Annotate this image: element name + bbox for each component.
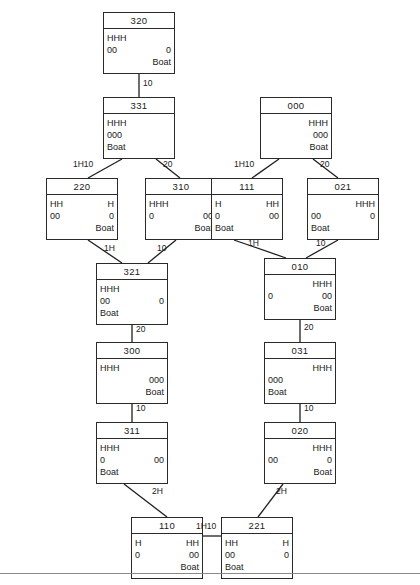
state-node-221[interactable]: 221HHH000Boat (221, 517, 293, 579)
state-node-000[interactable]: 000HHH000Boat (260, 97, 332, 159)
node-body: HHH000Boat (47, 195, 117, 241)
left-bank-text: 0 (215, 210, 220, 222)
left-bank-text: 00 (100, 295, 110, 307)
right-bank-text: Boat (145, 386, 164, 398)
edge-label: 1H10 (234, 159, 254, 169)
node-body: HHH000Boat (146, 195, 216, 241)
edge-label: 20 (320, 159, 329, 169)
right-bank-text: 00 (269, 210, 279, 222)
node-row: 000 (107, 44, 171, 56)
state-node-321[interactable]: 321HHH000Boat (96, 263, 168, 325)
state-node-020[interactable]: 020HHH000Boat (264, 422, 336, 484)
edge-label: 10 (157, 243, 166, 253)
left-bank-text: 00 (311, 210, 321, 222)
node-row: 000 (264, 129, 328, 141)
left-bank-text: Boat (215, 222, 234, 234)
node-row: HHH (268, 362, 332, 374)
left-bank-text: 000 (268, 374, 283, 386)
node-id-label: 220 (47, 179, 117, 195)
bottom-divider (0, 573, 420, 574)
right-bank-text: 00 (189, 549, 199, 561)
state-node-310[interactable]: 310HHH000Boat (145, 178, 217, 240)
right-bank-text: HHH (309, 117, 329, 129)
edge-label: 2H (152, 486, 163, 496)
node-row: Boat (215, 222, 279, 234)
right-bank-text: Boat (313, 302, 332, 314)
state-node-010[interactable]: 010HHH000Boat (264, 258, 336, 320)
right-bank-text: 0 (166, 44, 171, 56)
node-row: HHH (50, 198, 114, 210)
right-bank-text: 00 (322, 290, 332, 302)
left-bank-text: HHH (107, 32, 127, 44)
right-bank-text: Boat (180, 561, 199, 573)
edge-label: 1H10 (196, 521, 216, 531)
left-bank-text: HHH (100, 283, 120, 295)
right-bank-text: 0 (109, 210, 114, 222)
node-row: 000 (107, 129, 171, 141)
node-id-label: 311 (97, 423, 167, 439)
node-row: 000 (100, 295, 164, 307)
edge-label: 20 (304, 322, 313, 332)
node-id-label: 320 (104, 13, 174, 29)
node-body: HHH000Boat (265, 275, 335, 321)
node-id-label: 331 (104, 98, 174, 114)
node-id-label: 021 (308, 179, 378, 195)
right-bank-text: 0 (284, 549, 289, 561)
node-row: HHH (225, 537, 289, 549)
right-bank-text: H (108, 198, 115, 210)
node-row: Boat (268, 466, 332, 478)
state-node-311[interactable]: 311HHH000Boat (96, 422, 168, 484)
state-node-320[interactable]: 320HHH000Boat (103, 12, 175, 74)
right-bank-text: Boat (309, 141, 328, 153)
edge-label: 1H (104, 243, 115, 253)
left-bank-text: Boat (107, 141, 126, 153)
node-row: Boat (100, 386, 164, 398)
left-bank-text: Boat (225, 561, 244, 573)
node-row: 000 (311, 210, 375, 222)
node-row: HHH (107, 117, 171, 129)
state-node-021[interactable]: 021HHH000Boat (307, 178, 379, 240)
state-node-300[interactable]: 300HHH000Boat (96, 342, 168, 404)
right-bank-text: Boat (313, 466, 332, 478)
state-node-110[interactable]: 110HHH000Boat (131, 517, 203, 579)
node-row: HHH (264, 117, 328, 129)
node-row: Boat (225, 561, 289, 573)
state-node-111[interactable]: 111HHH000Boat (211, 178, 283, 240)
node-body: HHH000Boat (97, 359, 167, 405)
state-node-331[interactable]: 331HHH000Boat (103, 97, 175, 159)
edge-label: 2H (276, 486, 287, 496)
node-row: 000 (268, 454, 332, 466)
node-id-label: 020 (265, 423, 335, 439)
right-bank-text: 0 (370, 210, 375, 222)
left-bank-text: 00 (225, 549, 235, 561)
node-row: HHH (215, 198, 279, 210)
node-id-label: 300 (97, 343, 167, 359)
edge-label: 10 (316, 238, 325, 248)
node-row: Boat (50, 222, 114, 234)
left-bank-text: Boat (100, 466, 119, 478)
edge-label: 10 (143, 78, 152, 88)
node-body: HHH000Boat (265, 359, 335, 405)
edge-n111-n010 (234, 240, 286, 258)
node-row: 000 (215, 210, 279, 222)
left-bank-text: HH (225, 537, 238, 549)
node-row: HHH (100, 362, 164, 374)
state-node-220[interactable]: 220HHH000Boat (46, 178, 118, 240)
right-bank-text: HHH (313, 362, 333, 374)
node-row: Boat (268, 302, 332, 314)
node-row: Boat (107, 141, 171, 153)
right-bank-text: H (283, 537, 290, 549)
left-bank-text: 0 (149, 210, 154, 222)
node-row: HHH (135, 537, 199, 549)
state-node-031[interactable]: 031HHH000Boat (264, 342, 336, 404)
diagram-canvas: 320HHH000Boat331HHH000Boat000HHH000Boat2… (0, 0, 420, 585)
node-row: 000 (135, 549, 199, 561)
node-row: HHH (311, 198, 375, 210)
node-row: 000 (225, 549, 289, 561)
left-bank-text: HHH (100, 362, 120, 374)
edge-layer (0, 0, 420, 585)
node-row: Boat (107, 56, 171, 68)
right-bank-text: 000 (313, 129, 328, 141)
left-bank-text: Boat (100, 307, 119, 319)
node-id-label: 310 (146, 179, 216, 195)
